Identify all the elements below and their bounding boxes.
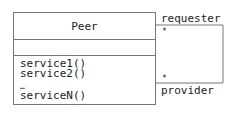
role-label-requester: requester [161,13,221,24]
class-name-compartment: Peer [14,13,155,40]
class-attributes-compartment [14,40,155,56]
role-label-provider: provider [161,85,214,96]
operation-item: service2() [20,69,86,79]
multiplicity-requester: * [162,28,167,36]
class-name: Peer [71,20,98,33]
operation-item: serviceN() [20,91,86,101]
multiplicity-provider: * [162,75,167,83]
class-operations-compartment: service1() service2() … serviceN() [20,59,86,101]
class-box-peer[interactable]: Peer service1() service2() … serviceN() [13,12,156,105]
